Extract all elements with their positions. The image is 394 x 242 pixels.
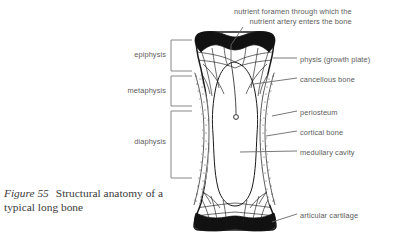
diaphysis-bracket [171,111,192,178]
leader-periosteum [272,111,297,116]
nutrient-foramen-circle [234,115,239,120]
label-nutrient-foramen: nutrient foramen through which the nutri… [234,7,352,27]
label-cancellous-bone: cancellous bone [300,75,355,85]
label-nutrient-foramen-line1: nutrient foramen through which the [234,7,352,17]
region-brackets [171,40,192,178]
leader-cortical-bone [266,131,297,136]
label-medullary-cavity: medullary cavity [300,148,355,158]
label-periosteum: periosteum [300,108,338,118]
label-epiphysis: epiphysis [86,50,166,60]
label-nutrient-foramen-line2: nutrient artery enters the bone [234,17,352,27]
label-physis: physis (growth plate) [300,55,370,65]
figure-page: nutrient foramen through which the nutri… [0,0,394,242]
figure-number: Figure 55 [4,187,49,199]
label-diaphysis: diaphysis [86,137,166,147]
epiphysis-bracket [171,40,192,71]
label-articular-cartilage: articular cartilage [300,211,358,221]
label-metaphysis: metaphysis [86,86,166,96]
metaphysis-bracket [171,76,192,106]
label-cortical-bone: cortical bone [300,128,343,138]
figure-caption: Figure 55Structural anatomy of a typical… [4,186,194,214]
